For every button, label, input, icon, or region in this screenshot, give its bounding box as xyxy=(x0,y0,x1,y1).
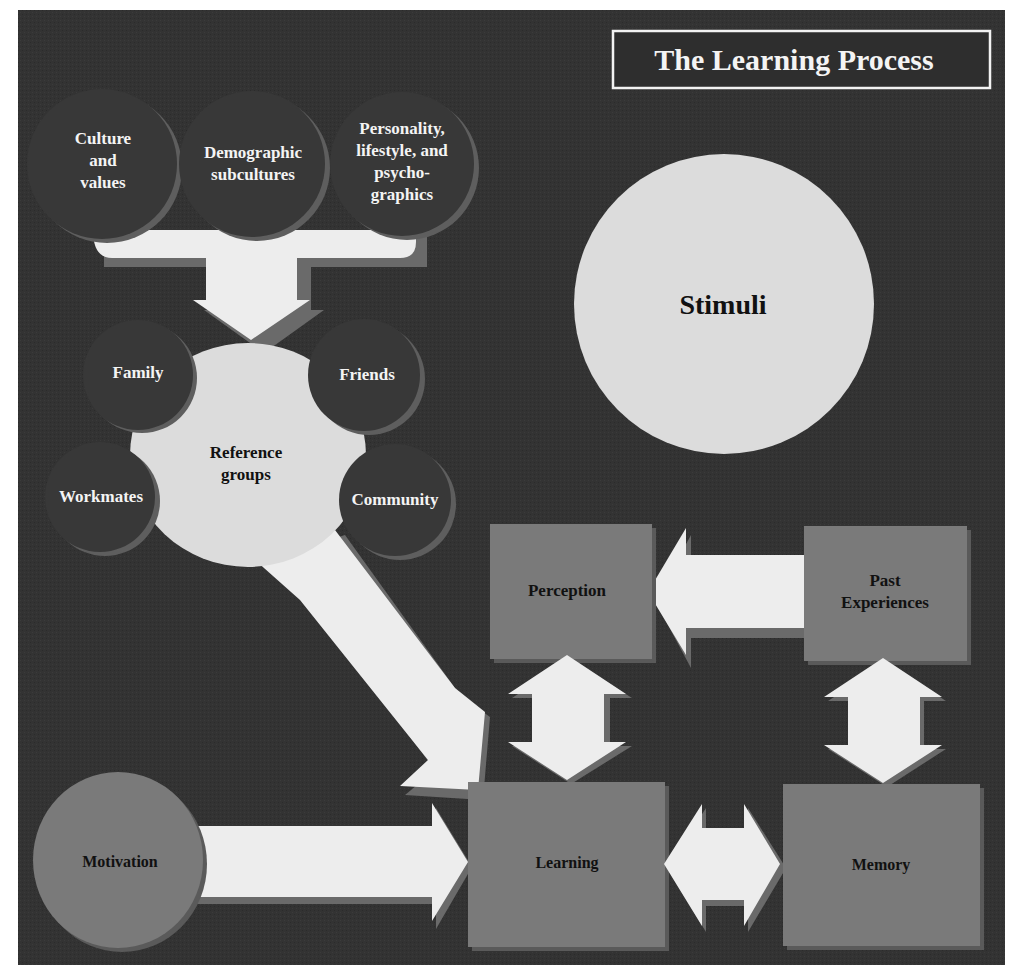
stimuli-circle: Stimuli xyxy=(574,154,874,454)
satellite-label: Community xyxy=(352,490,439,509)
page-title: The Learning Process xyxy=(654,43,933,76)
label-line: psycho- xyxy=(374,163,430,182)
satellite-label: Family xyxy=(113,363,164,382)
past-experiences-label: Experiences xyxy=(841,593,929,612)
satellite-label: Friends xyxy=(339,365,395,384)
past-experiences-box: Past Experiences xyxy=(804,526,971,665)
learning-process-diagram: The Learning Process Culture and values … xyxy=(0,0,1011,974)
label-line: graphics xyxy=(371,185,434,204)
perception-label: Perception xyxy=(528,581,607,600)
label-line: values xyxy=(80,173,126,192)
learning-label: Learning xyxy=(535,854,598,872)
label-line: Culture xyxy=(75,129,132,148)
label-line: subcultures xyxy=(211,165,295,184)
label-line: Demographic xyxy=(204,143,303,162)
memory-label: Memory xyxy=(852,856,911,874)
learning-box: Learning xyxy=(468,782,669,951)
title-box: The Learning Process xyxy=(613,31,990,88)
label-line: Personality, xyxy=(359,119,444,138)
label-line: lifestyle, and xyxy=(356,141,448,160)
label-line: and xyxy=(89,151,117,170)
reference-groups-label: Reference xyxy=(210,443,283,462)
reference-groups-label: groups xyxy=(221,465,271,484)
memory-box: Memory xyxy=(783,784,984,950)
satellite-label: Workmates xyxy=(59,487,143,506)
motivation-label: Motivation xyxy=(82,853,158,870)
perception-box: Perception xyxy=(490,524,656,663)
past-experiences-label: Past xyxy=(869,571,901,590)
stimuli-label: Stimuli xyxy=(679,289,766,320)
